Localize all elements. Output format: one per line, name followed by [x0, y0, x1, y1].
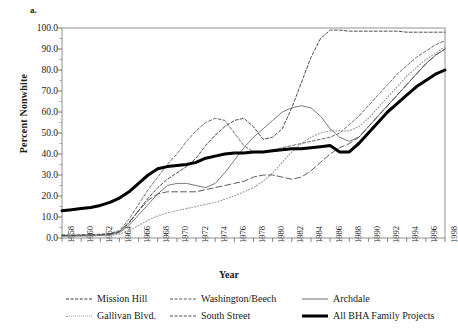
legend-item[interactable]: Gallivan Blvd. [66, 307, 170, 324]
series-line-all-bha-family-projects [62, 70, 445, 211]
plot-area [0, 0, 458, 331]
legend-item[interactable]: Archdale [302, 290, 452, 307]
series-line-mission-hill [62, 30, 445, 236]
legend-label: Archdale [333, 293, 370, 304]
series-line-gallivan-blvd [62, 47, 445, 236]
legend-swatch-icon [170, 311, 196, 321]
chart-figure: Percent Nonwhite Year 100.090.080.070.06… [0, 0, 458, 331]
series-line-archdale [62, 49, 445, 236]
legend-swatch-icon [170, 294, 196, 304]
legend-swatch-icon [302, 311, 328, 321]
chart-legend: Mission HillWashington/BeechArchdaleGall… [66, 290, 452, 324]
legend-item[interactable]: Washington/Beech [170, 290, 302, 307]
legend-label: South Street [201, 310, 250, 321]
legend-label: Washington/Beech [201, 293, 276, 304]
series-line-south-street [62, 49, 445, 235]
legend-swatch-icon [66, 311, 92, 321]
plot-frame [62, 28, 445, 238]
legend-swatch-icon [302, 294, 328, 304]
legend-label: Mission Hill [97, 293, 147, 304]
legend-item[interactable]: All BHA Family Projects [302, 307, 452, 324]
legend-label: Gallivan Blvd. [97, 310, 156, 321]
legend-item[interactable]: Mission Hill [66, 290, 170, 307]
legend-label: All BHA Family Projects [333, 310, 434, 321]
legend-item[interactable]: South Street [170, 307, 302, 324]
legend-swatch-icon [66, 294, 92, 304]
